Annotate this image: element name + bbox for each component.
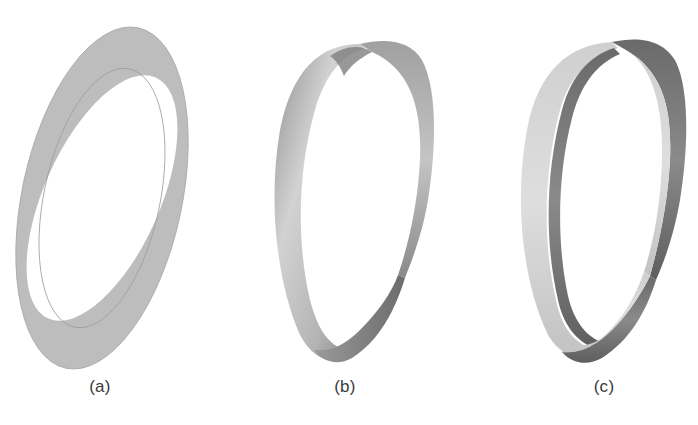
- figure: (a): [0, 0, 698, 425]
- two-sided-ribbon-graphic: [0, 0, 698, 425]
- panel-label-c: (c): [594, 377, 615, 397]
